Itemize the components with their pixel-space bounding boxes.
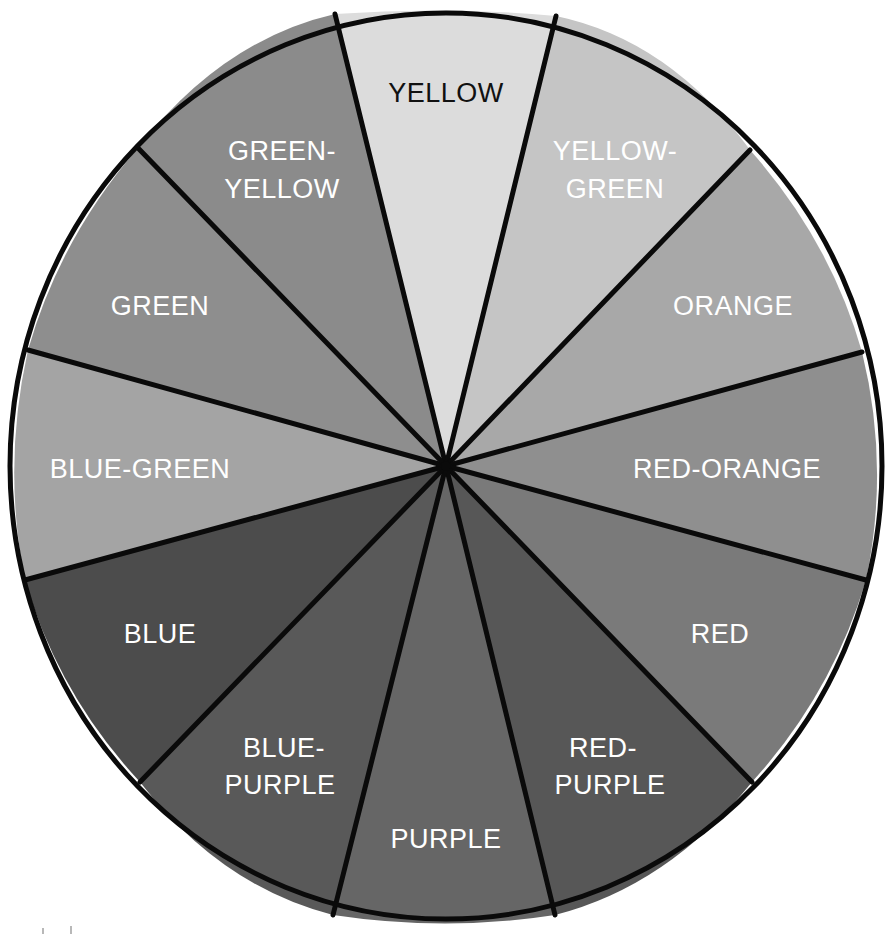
label-orange: ORANGE [673, 291, 793, 321]
label-blue-purple-line1: BLUE- [243, 733, 325, 763]
label-red-orange: RED-ORANGE [633, 454, 821, 484]
label-red-purple-line1: RED- [569, 733, 637, 763]
label-green: GREEN [111, 291, 210, 321]
label-red: RED [691, 619, 750, 649]
color-wheel: YELLOW YELLOW- GREEN ORANGE RED-ORANGE R… [0, 0, 891, 934]
center-hub [441, 461, 451, 471]
label-yellow: YELLOW [388, 78, 504, 108]
label-blue-purple-line2: PURPLE [224, 770, 335, 800]
label-blue-green: BLUE-GREEN [50, 454, 231, 484]
label-purple: PURPLE [390, 824, 501, 854]
corner-mark [70, 926, 72, 934]
label-yellow-green-line2: GREEN [566, 174, 665, 204]
label-blue: BLUE [124, 619, 197, 649]
label-green-yellow-line2: YELLOW [224, 174, 340, 204]
label-green-yellow-line1: GREEN- [228, 136, 336, 166]
label-red-purple-line2: PURPLE [554, 770, 665, 800]
corner-mark [42, 928, 44, 934]
label-yellow-green-line1: YELLOW- [553, 136, 678, 166]
